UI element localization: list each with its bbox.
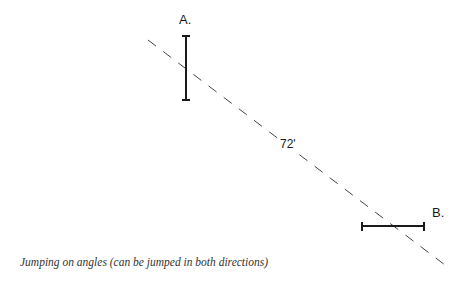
jump-a-label: A.: [179, 12, 191, 27]
diagram-svg: [0, 0, 468, 285]
diagram-caption: Jumping on angles (can be jumped in both…: [20, 256, 268, 268]
jump-path-line: [148, 40, 445, 265]
diagram-canvas: A. B. 72' Jumping on angles (can be jump…: [0, 0, 468, 285]
jump-b-bar: [362, 222, 424, 231]
jump-a-bar: [182, 36, 190, 100]
jump-b-label: B.: [432, 205, 444, 220]
distance-label: 72': [280, 137, 296, 151]
